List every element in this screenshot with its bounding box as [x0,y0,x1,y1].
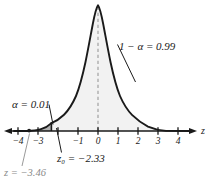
tick-label-pos1: 1 [110,137,126,147]
tick-label-zero: 0 [90,137,106,147]
tick-label-pos4: 4 [170,137,186,147]
tick-label-neg3: −3 [30,137,46,147]
tick-label-pos3: 3 [150,137,166,147]
axis-arrow-left-icon [4,128,12,134]
tick-label-neg1: −1 [70,137,86,147]
tick-label-neg4: −4 [10,137,26,147]
annotation-z-statistic: z = −3.46 [4,168,46,179]
annotation-alpha: α = 0.01 [12,99,50,110]
axis-label-z: z [201,126,205,136]
z-statistic-dot-marker [27,129,31,133]
annotation-confidence-level: 1 − α = 0.99 [119,41,175,52]
shaded-confidence-area [51,5,190,131]
annotation-z-critical: z₀ = −2.33 [57,153,105,164]
distribution-plot [0,0,214,184]
axis-arrow-right-icon [189,128,197,134]
normal-distribution-figure: −4 −3 −1 0 1 2 3 4 z 1 − α = 0.99 α = 0.… [0,0,214,184]
tick-label-pos2: 2 [130,137,146,147]
